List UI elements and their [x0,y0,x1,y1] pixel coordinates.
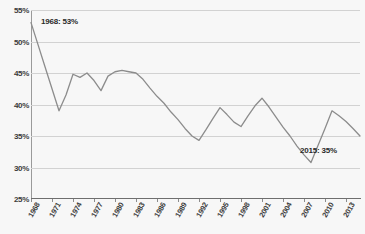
x-tick-label: 1977 [89,201,105,219]
data-series-line [31,10,360,199]
x-tick-mark [241,199,242,202]
x-tick-label: 1980 [110,201,126,219]
x-tick-mark [94,199,95,202]
x-tick-mark [73,199,74,202]
x-tick-mark [304,199,305,202]
line-chart: 55% 50% 45% 40% 35% 30% 25% 196819711974… [0,0,365,234]
y-tick-label: 25% [1,195,29,204]
x-tick-label: 2001 [257,201,273,219]
annotation-start: 1968: 53% [41,17,78,26]
x-tick-label: 1986 [152,201,168,219]
x-tick-mark [325,199,326,202]
x-tick-mark [157,199,158,202]
y-tick-label: 40% [1,100,29,109]
y-tick-label: 35% [1,132,29,141]
x-tick-mark [262,199,263,202]
x-tick-label: 2007 [299,201,315,219]
x-tick-mark [178,199,179,202]
x-tick-mark [52,199,53,202]
x-tick-label: 1992 [194,201,210,219]
x-tick-mark [136,199,137,202]
x-tick-label: 2010 [320,201,336,219]
x-tick-mark [199,199,200,202]
y-tick-label: 55% [1,6,29,15]
annotation-end: 2015: 35% [300,146,337,155]
plot-area [31,10,360,199]
y-tick-label: 45% [1,69,29,78]
x-tick-mark [346,199,347,202]
x-tick-label: 1998 [236,201,252,219]
x-tick-mark [31,199,32,202]
x-tick-label: 1983 [131,201,147,219]
x-tick-label: 1974 [68,201,84,219]
x-tick-label: 1989 [173,201,189,219]
x-tick-label: 1971 [47,201,63,219]
x-tick-label: 1995 [215,201,231,219]
y-axis: 55% 50% 45% 40% 35% 30% 25% [0,0,29,234]
x-tick-mark [115,199,116,202]
y-tick-label: 50% [1,37,29,46]
x-tick-mark [220,199,221,202]
x-axis: 1968197119741977198019831986198919921995… [31,199,360,234]
y-tick-label: 30% [1,163,29,172]
x-tick-label: 2004 [278,201,294,219]
x-tick-mark [283,199,284,202]
x-tick-label: 2013 [341,201,357,219]
